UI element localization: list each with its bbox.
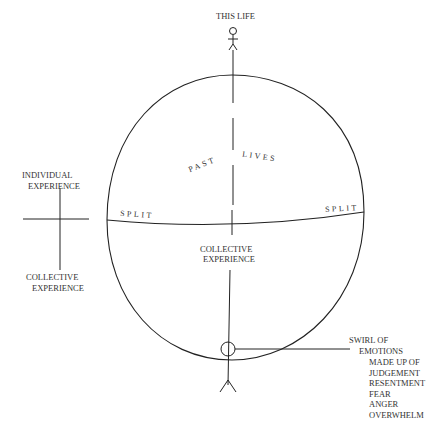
split-right-label: SPLIT: [325, 203, 359, 215]
timeline-segment-5: [228, 270, 230, 385]
collective-experience-label-line1: COLLECTIVE: [200, 244, 252, 254]
axis-top-label-line1: INDIVIDUAL: [22, 170, 73, 180]
swirl-line-7: OVERWHELM: [369, 410, 424, 420]
swirl-line-4: RESENTMENT: [369, 378, 425, 388]
swirl-line-0: SWIRL OF: [349, 335, 388, 345]
swirl-of-emotions-icon: [221, 342, 235, 356]
swirl-line-1: EMOTIONS: [359, 346, 403, 356]
swirl-line-5: FEAR: [369, 389, 391, 399]
axis-top-label-line2: EXPERIENCE: [28, 181, 80, 191]
axis-bottom-label-line1: COLLECTIVE: [26, 272, 78, 282]
swirl-line-3: JUDGEMENT: [369, 368, 420, 378]
this-life-stick-figure-icon: [228, 28, 238, 51]
axis-bottom-label-line2: EXPERIENCE: [32, 283, 84, 293]
swirl-line-6: ANGER: [369, 399, 398, 409]
this-life-label: THIS LIFE: [216, 11, 255, 21]
collective-experience-label-line2: EXPERIENCE: [203, 254, 255, 264]
swirl-line-2: MADE UP OF: [369, 357, 420, 367]
